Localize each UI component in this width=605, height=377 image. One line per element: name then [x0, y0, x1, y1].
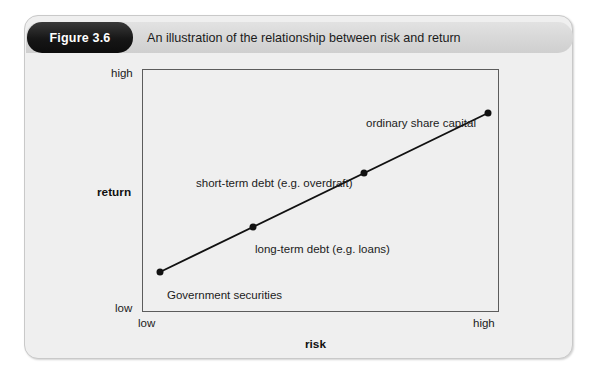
- x-axis-tick-high: high: [473, 317, 495, 329]
- figure-header-bar: Figure 3.6 An illustration of the relati…: [26, 22, 573, 53]
- y-axis-title: return: [97, 185, 131, 199]
- chart-area: high low low high return risk ordinary s…: [25, 53, 572, 358]
- data-point-short-term-debt: [361, 170, 368, 177]
- annotation-government-securities: Government securities: [167, 289, 282, 301]
- figure-number-badge: Figure 3.6: [27, 22, 133, 53]
- x-axis-tick-low: low: [138, 317, 155, 329]
- data-point-long-term-debt: [250, 224, 257, 231]
- y-axis-tick-low: low: [115, 302, 132, 314]
- x-axis-title: risk: [305, 337, 326, 351]
- data-point-government-securities: [157, 269, 164, 276]
- annotation-ordinary-share-capital: ordinary share capital: [366, 117, 476, 129]
- annotation-long-term-debt: long-term debt (e.g. loans): [255, 243, 390, 255]
- figure-card: Figure 3.6 An illustration of the relati…: [24, 15, 573, 359]
- risk-return-line-chart: [142, 69, 499, 312]
- annotation-short-term-debt: short-term debt (e.g. overdraft): [196, 177, 353, 189]
- y-axis-tick-high: high: [111, 67, 133, 79]
- figure-caption: An illustration of the relationship betw…: [147, 22, 461, 53]
- data-point-ordinary-share-capital: [485, 110, 492, 117]
